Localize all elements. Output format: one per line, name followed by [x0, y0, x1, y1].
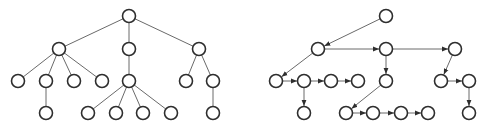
node-i [123, 75, 136, 88]
edge-i-n [118, 87, 126, 107]
node-j [180, 75, 193, 88]
node-a [380, 10, 393, 23]
node-e [12, 75, 25, 88]
arrow-edge-a-b [324, 19, 380, 46]
node-l [40, 107, 53, 120]
node-l [298, 107, 311, 120]
node-k [207, 75, 220, 88]
node-b [312, 43, 325, 56]
right-tree-nodes [270, 10, 476, 120]
node-k [463, 75, 476, 88]
node-n [110, 107, 123, 120]
edge-b-f [48, 55, 56, 75]
node-c [380, 43, 393, 56]
edge-a-b [65, 19, 123, 46]
left-undirected-tree [12, 10, 220, 120]
right-tree-edges [282, 19, 469, 113]
node-b [53, 43, 66, 56]
left-tree-nodes [12, 10, 220, 120]
node-h [352, 75, 365, 88]
right-directed-tree [270, 10, 476, 120]
node-g [68, 75, 81, 88]
arrow-edge-i-m [351, 85, 380, 109]
edge-b-g [62, 55, 71, 75]
node-f [298, 75, 311, 88]
edge-b-h [64, 53, 97, 77]
node-m [82, 107, 95, 120]
node-i [380, 75, 393, 88]
edge-d-j [188, 55, 196, 75]
edge-a-d [135, 19, 193, 46]
arrow-edge-d-j [444, 55, 453, 75]
node-c [123, 43, 136, 56]
node-p [422, 107, 435, 120]
tree-diagram-canvas [0, 0, 482, 126]
node-o [137, 107, 150, 120]
node-h [96, 75, 109, 88]
left-tree-edges [23, 19, 213, 109]
edge-i-p [134, 85, 166, 109]
edge-d-k [202, 55, 211, 75]
node-j [435, 75, 448, 88]
node-e [270, 75, 283, 88]
arrow-edge-b-e [282, 53, 313, 77]
node-d [193, 43, 206, 56]
node-q [207, 107, 220, 120]
node-f [40, 75, 53, 88]
node-p [165, 107, 178, 120]
node-o [395, 107, 408, 120]
node-m [340, 107, 353, 120]
node-g [325, 75, 338, 88]
node-q [463, 107, 476, 120]
node-n [367, 107, 380, 120]
edge-i-o [132, 87, 141, 107]
node-a [123, 10, 136, 23]
node-d [449, 43, 462, 56]
